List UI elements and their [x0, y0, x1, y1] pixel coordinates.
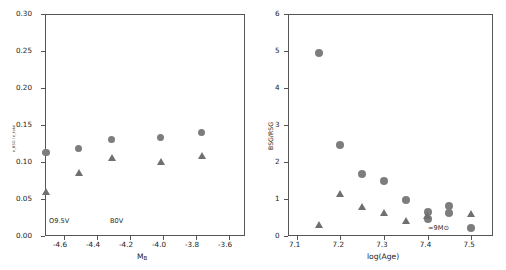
- right-xtick-label: 7.2: [333, 240, 344, 249]
- right-ytick-label: 3: [275, 120, 280, 129]
- left-xtick-label: -4.0: [152, 240, 166, 249]
- left-xtick-label: -3.8: [185, 240, 199, 249]
- data-point-triangle: [157, 158, 165, 165]
- left-panel: 0.30 0.25 0.20 0.15 0.10 0.05 0.00 n_BSG…: [0, 0, 253, 270]
- right-xtick-label: 7.4: [420, 240, 431, 249]
- data-point-circle: [358, 170, 366, 178]
- data-point-triangle: [198, 152, 206, 159]
- left-ytick-label: 0.15: [16, 120, 32, 129]
- data-point-triangle: [42, 188, 50, 195]
- right-plot-frame: [288, 14, 493, 236]
- figure-two-panel-scatter: 0.30 0.25 0.20 0.15 0.10 0.05 0.00 n_BSG…: [0, 0, 506, 270]
- left-ytick-label: 0.30: [16, 9, 32, 18]
- right-annotation-mass: ≈9M⊙: [428, 224, 449, 232]
- right-ytick-label: 0: [275, 231, 280, 240]
- left-annotation-o95v: O9.5V: [49, 217, 69, 225]
- right-panel: 6 5 4 3 2 1 0 BSG/RSG 7.1 7.2 7.3 7.4: [253, 0, 506, 270]
- right-ytick-label: 1: [275, 194, 280, 203]
- right-x-axis-title: log(Age): [367, 252, 399, 261]
- right-ytick-label: 5: [275, 46, 280, 55]
- left-x-axis-title: MB: [137, 252, 147, 261]
- left-xtick-label: -4.2: [119, 240, 133, 249]
- left-ytick-label: 0.25: [16, 46, 32, 55]
- left-plot-frame: [45, 14, 245, 236]
- right-y-axis-title: BSG/RSG: [267, 122, 274, 150]
- data-point-triangle: [75, 169, 83, 176]
- left-xtick-label: -4.4: [86, 240, 100, 249]
- data-point-triangle: [108, 154, 116, 161]
- left-ytick-label: 0.00: [16, 231, 32, 240]
- left-xtick-label: -4.6: [53, 240, 67, 249]
- left-x-axis-title-sub: B: [144, 255, 148, 261]
- left-ytick-label: 0.10: [16, 157, 32, 166]
- right-ytick-label: 2: [275, 157, 280, 166]
- right-ytick-label: 6: [275, 9, 280, 18]
- right-xtick-label: 7.5: [463, 240, 474, 249]
- data-point-triangle: [380, 209, 388, 216]
- data-point-triangle: [467, 210, 475, 217]
- right-xtick-label: 7.1: [289, 240, 300, 249]
- left-ytick-label: 0.20: [16, 83, 32, 92]
- data-point-triangle: [423, 212, 431, 219]
- left-annotation-b0v: B0V: [110, 217, 123, 225]
- data-point-triangle: [358, 203, 366, 210]
- data-point-triangle: [315, 221, 323, 228]
- data-point-circle: [402, 196, 410, 204]
- data-point-triangle: [336, 190, 344, 197]
- left-ytick-label: 0.05: [16, 194, 32, 203]
- right-ytick-label: 4: [275, 83, 280, 92]
- left-y-axis-title: n_BSG / n_total: [12, 125, 16, 152]
- data-point-circle: [315, 49, 323, 57]
- data-point-triangle: [402, 217, 410, 224]
- data-point-circle: [467, 224, 475, 232]
- left-xtick-label: -3.6: [218, 240, 232, 249]
- right-xtick-label: 7.3: [376, 240, 387, 249]
